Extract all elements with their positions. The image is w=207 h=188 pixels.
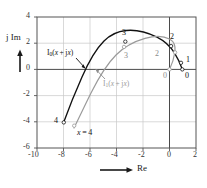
point-label-I0-4: 4 [54,117,58,125]
marker-I1-0 [168,68,171,71]
bessel-complex-plane-figure: 4 2 0 -2 -4 -6 -10 -8 -6 -4 -2 0 2 j Im … [0,0,207,188]
plot-svg [0,0,207,188]
marker-I0-0 [181,68,184,71]
marker-I1-4 [73,124,76,127]
ytick-2: 2 [26,38,30,46]
marker-I0-4 [62,121,65,124]
marker-I0-3 [124,40,127,43]
curve-label-I1: I1(x + jx) [103,80,129,89]
xtick--2: -2 [138,151,145,159]
marker-I1-2 [173,51,176,54]
point-label-I0-3: 3 [122,29,126,37]
point-label-I1-4: x = 4 [77,129,92,137]
xtick-2: 2 [193,151,197,159]
up-arrow-icon [17,50,23,73]
marker-I1-3 [122,45,125,48]
point-label-I0-2: 2 [170,33,174,41]
xtick--10: -10 [28,151,39,159]
point-label-I0-0: 0 [185,72,189,80]
xtick--4: -4 [111,151,118,159]
point-label-I1-3: 3 [124,52,128,60]
leader-line-I0 [76,58,86,69]
xtick--8: -8 [58,151,65,159]
marker-I0-1 [179,61,182,64]
point-label-I0-1: 1 [186,56,190,64]
curve-label-I0: I0(x + jx) [47,49,73,58]
right-arrow-icon [100,167,133,173]
ytick-4: 4 [26,12,30,20]
ytick--2: -2 [23,90,30,98]
xtick-0: 0 [167,151,171,159]
point-label-I1-0: 0 [163,72,167,80]
ytick--4: -4 [23,117,30,125]
marker-I0-2 [169,44,172,47]
x-axis-title: Re [137,164,147,173]
xtick--6: -6 [85,151,92,159]
ytick-0: 0 [26,64,30,72]
y-axis-title: j Im [6,33,21,42]
point-label-I1-2: 2 [155,50,159,58]
